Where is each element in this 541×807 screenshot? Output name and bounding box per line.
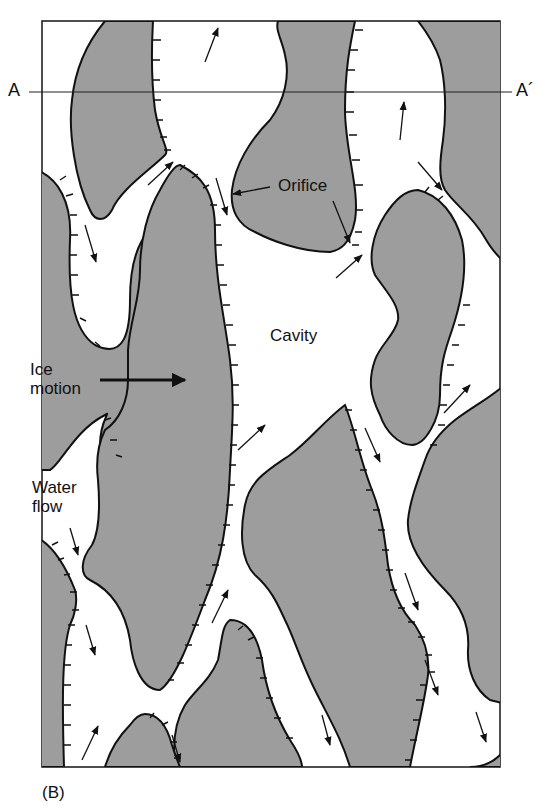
panel-label: (B): [42, 783, 65, 802]
water-flow-label: Water flow: [32, 478, 77, 516]
ice-motion-label: Ice motion: [30, 360, 81, 398]
section-start-label: A: [8, 81, 20, 100]
cavity-label: Cavity: [270, 326, 317, 345]
section-end-label: A´: [516, 81, 534, 100]
linked-cavity-diagram: [0, 0, 541, 807]
orifice-label: Orifice: [278, 176, 327, 195]
